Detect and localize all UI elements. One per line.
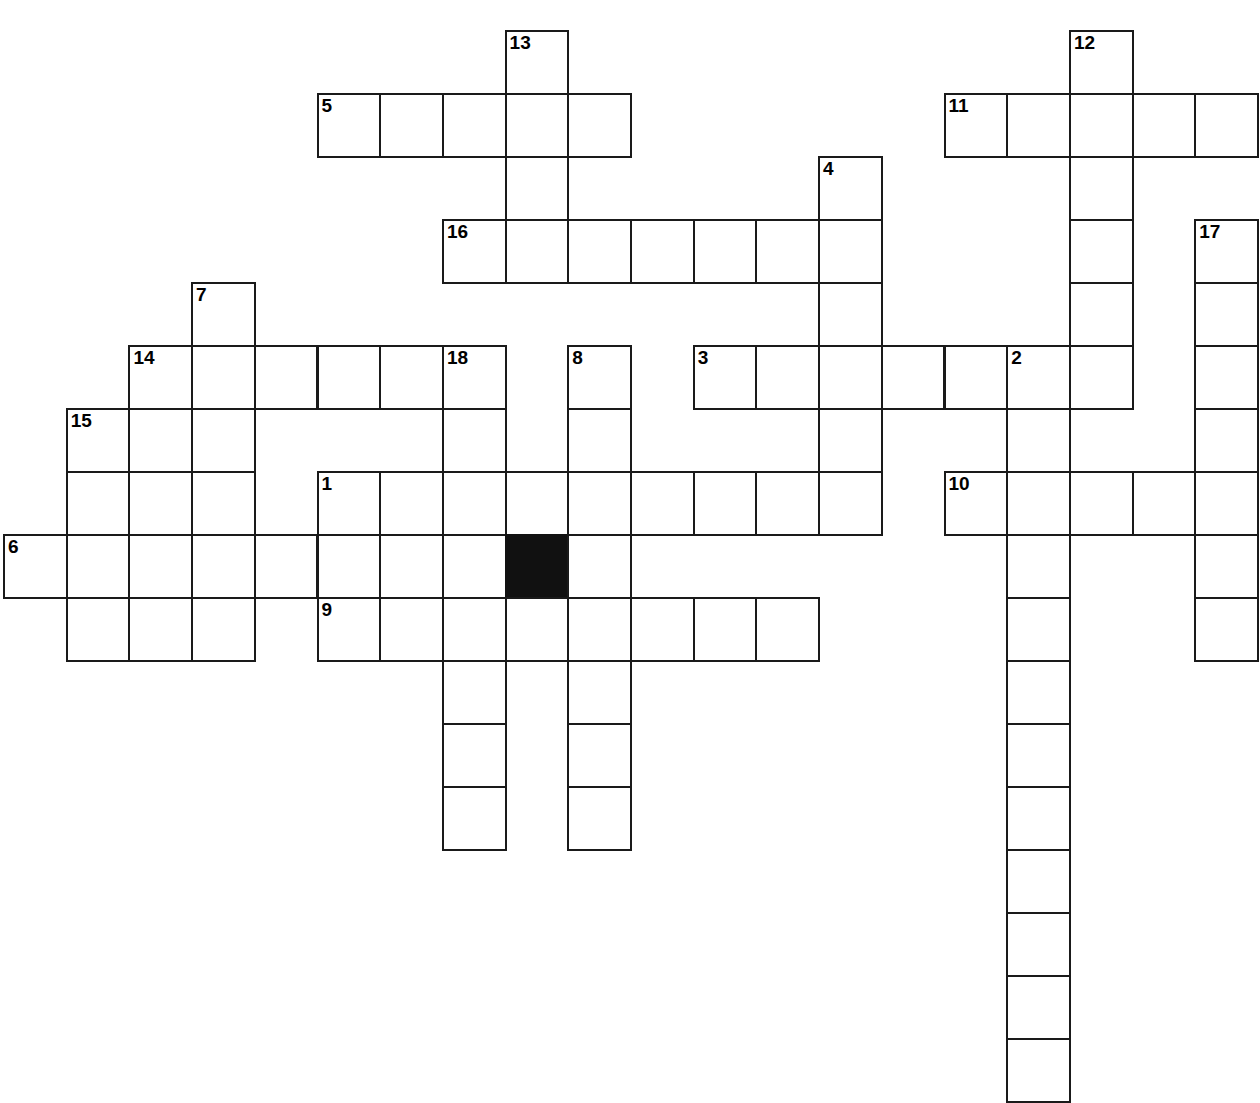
letter-cell[interactable] [254,345,319,410]
letter-cell[interactable] [1194,597,1259,662]
letter-cell[interactable] [567,534,632,599]
letter-cell[interactable] [1194,534,1259,599]
letter-cell[interactable] [191,408,256,473]
letter-cell[interactable] [128,534,193,599]
letter-cell[interactable] [442,408,507,473]
letter-cell[interactable] [818,282,883,347]
letter-cell[interactable] [567,471,632,536]
letter-cell[interactable] [442,471,507,536]
letter-cell[interactable] [1006,534,1071,599]
letter-cell[interactable] [818,471,883,536]
letter-cell[interactable] [1194,282,1259,347]
letter-cell[interactable] [128,408,193,473]
letter-cell[interactable] [567,93,632,158]
letter-cell[interactable] [442,786,507,851]
letter-cell[interactable] [693,597,758,662]
letter-cell[interactable] [567,786,632,851]
letter-cell[interactable] [1069,219,1134,284]
numbered-cell[interactable]: 9 [317,597,382,662]
letter-cell[interactable] [567,723,632,788]
numbered-cell[interactable]: 3 [693,345,758,410]
letter-cell[interactable] [442,534,507,599]
letter-cell[interactable] [66,534,131,599]
numbered-cell[interactable]: 2 [1006,345,1071,410]
letter-cell[interactable] [1132,471,1197,536]
numbered-cell[interactable]: 6 [3,534,68,599]
numbered-cell[interactable]: 14 [128,345,193,410]
letter-cell[interactable] [254,534,319,599]
letter-cell[interactable] [755,219,820,284]
numbered-cell[interactable]: 12 [1069,30,1134,95]
letter-cell[interactable] [818,219,883,284]
letter-cell[interactable] [442,93,507,158]
letter-cell[interactable] [1132,93,1197,158]
letter-cell[interactable] [317,345,382,410]
letter-cell[interactable] [818,345,883,410]
letter-cell[interactable] [630,219,695,284]
numbered-cell[interactable]: 18 [442,345,507,410]
letter-cell[interactable] [944,345,1009,410]
letter-cell[interactable] [191,534,256,599]
letter-cell[interactable] [505,471,570,536]
letter-cell[interactable] [693,219,758,284]
letter-cell[interactable] [1194,93,1259,158]
letter-cell[interactable] [755,471,820,536]
letter-cell[interactable] [1194,471,1259,536]
letter-cell[interactable] [567,660,632,725]
numbered-cell[interactable]: 4 [818,156,883,221]
letter-cell[interactable] [818,408,883,473]
letter-cell[interactable] [567,597,632,662]
numbered-cell[interactable]: 13 [505,30,570,95]
numbered-cell[interactable]: 16 [442,219,507,284]
numbered-cell[interactable]: 7 [191,282,256,347]
letter-cell[interactable] [191,471,256,536]
letter-cell[interactable] [567,408,632,473]
letter-cell[interactable] [693,471,758,536]
letter-cell[interactable] [1006,93,1071,158]
letter-cell[interactable] [66,471,131,536]
letter-cell[interactable] [630,471,695,536]
letter-cell[interactable] [1006,975,1071,1040]
letter-cell[interactable] [191,597,256,662]
numbered-cell[interactable]: 5 [317,93,382,158]
letter-cell[interactable] [1069,282,1134,347]
letter-cell[interactable] [1006,597,1071,662]
letter-cell[interactable] [881,345,946,410]
letter-cell[interactable] [567,219,632,284]
numbered-cell[interactable]: 10 [944,471,1009,536]
letter-cell[interactable] [442,723,507,788]
letter-cell[interactable] [442,660,507,725]
letter-cell[interactable] [1069,471,1134,536]
numbered-cell[interactable]: 17 [1194,219,1259,284]
letter-cell[interactable] [128,471,193,536]
letter-cell[interactable] [1006,471,1071,536]
letter-cell[interactable] [442,597,507,662]
letter-cell[interactable] [755,597,820,662]
letter-cell[interactable] [755,345,820,410]
letter-cell[interactable] [66,597,131,662]
letter-cell[interactable] [630,597,695,662]
numbered-cell[interactable]: 11 [944,93,1009,158]
letter-cell[interactable] [379,471,444,536]
letter-cell[interactable] [317,534,382,599]
letter-cell[interactable] [1006,723,1071,788]
letter-cell[interactable] [1006,786,1071,851]
letter-cell[interactable] [128,597,193,662]
letter-cell[interactable] [1006,849,1071,914]
letter-cell[interactable] [505,156,570,221]
numbered-cell[interactable]: 15 [66,408,131,473]
letter-cell[interactable] [379,345,444,410]
letter-cell[interactable] [191,345,256,410]
letter-cell[interactable] [505,597,570,662]
letter-cell[interactable] [379,597,444,662]
letter-cell[interactable] [1194,345,1259,410]
numbered-cell[interactable]: 1 [317,471,382,536]
letter-cell[interactable] [1069,345,1134,410]
letter-cell[interactable] [379,93,444,158]
numbered-cell[interactable]: 8 [567,345,632,410]
letter-cell[interactable] [1194,408,1259,473]
letter-cell[interactable] [505,219,570,284]
letter-cell[interactable] [1069,93,1134,158]
letter-cell[interactable] [505,93,570,158]
